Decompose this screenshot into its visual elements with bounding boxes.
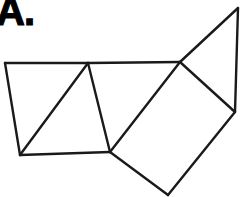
figure-panel: A. [0, 0, 252, 197]
edge-top-edge-right [88, 62, 180, 63]
figure-faces [5, 8, 238, 195]
geometric-figure-svg [0, 0, 252, 197]
